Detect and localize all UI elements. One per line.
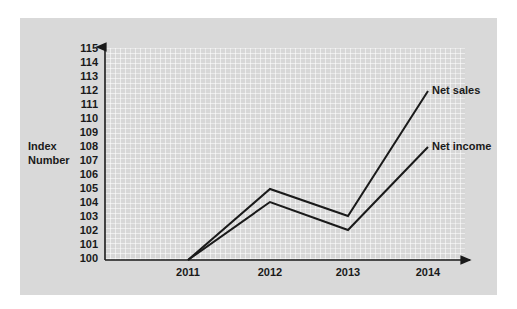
series-label-net-income: Net income <box>432 140 491 152</box>
series-line-net-income <box>188 147 428 260</box>
chart-plot-area <box>20 18 497 295</box>
chart-figure: 115 114 113 112 111 110 109 108 107 106 … <box>20 18 497 295</box>
series-label-net-sales: Net sales <box>432 84 480 96</box>
